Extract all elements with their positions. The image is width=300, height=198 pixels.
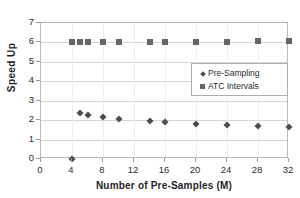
data-point bbox=[69, 39, 75, 45]
chart-legend: Pre-Sampling ATC Intervals bbox=[191, 63, 288, 96]
diamond-marker-icon bbox=[197, 72, 208, 76]
x-tick-mark bbox=[226, 158, 227, 162]
data-point bbox=[68, 155, 75, 162]
y-tick-mark bbox=[36, 119, 40, 120]
y-tick-label: 5 bbox=[14, 56, 34, 65]
y-tick-mark bbox=[36, 139, 40, 140]
y-tick-mark bbox=[36, 100, 40, 101]
x-tick-label: 32 bbox=[276, 165, 300, 174]
x-tick-mark bbox=[164, 158, 165, 162]
x-tick-label: 4 bbox=[59, 165, 83, 174]
data-point bbox=[161, 119, 168, 126]
y-tick-label: 2 bbox=[14, 114, 34, 123]
data-point bbox=[76, 110, 83, 117]
data-point bbox=[77, 39, 83, 45]
data-point bbox=[254, 123, 261, 130]
legend-item-atc-intervals: ATC Intervals bbox=[197, 80, 287, 93]
data-point bbox=[85, 39, 91, 45]
y-axis-title: Speed Up bbox=[6, 33, 17, 103]
data-point bbox=[84, 111, 91, 118]
y-tick-mark bbox=[36, 80, 40, 81]
x-tick-mark bbox=[288, 158, 289, 162]
data-point bbox=[224, 39, 230, 45]
x-tick-label: 24 bbox=[214, 165, 238, 174]
data-point bbox=[192, 121, 199, 128]
y-tick-mark bbox=[36, 22, 40, 23]
x-tick-mark bbox=[71, 158, 72, 162]
speed-up-scatter-chart: 01234567 048121620242832 Speed Up Number… bbox=[0, 0, 300, 198]
data-point bbox=[193, 39, 199, 45]
legend-label-atc-intervals: ATC Intervals bbox=[208, 82, 259, 91]
y-tick-label: 6 bbox=[14, 36, 34, 45]
y-tick-label: 1 bbox=[14, 134, 34, 143]
y-tick-mark bbox=[36, 41, 40, 42]
x-tick-mark bbox=[195, 158, 196, 162]
data-point bbox=[255, 38, 261, 44]
x-tick-mark bbox=[257, 158, 258, 162]
gridline bbox=[41, 140, 287, 141]
x-tick-label: 20 bbox=[183, 165, 207, 174]
x-tick-label: 12 bbox=[121, 165, 145, 174]
x-tick-label: 16 bbox=[152, 165, 176, 174]
y-tick-label: 7 bbox=[14, 17, 34, 26]
y-tick-mark bbox=[36, 61, 40, 62]
data-point bbox=[223, 121, 230, 128]
y-tick-label: 3 bbox=[14, 95, 34, 104]
gridline bbox=[41, 101, 287, 102]
square-marker-icon bbox=[197, 84, 208, 89]
y-tick-label: 4 bbox=[14, 75, 34, 84]
data-point bbox=[147, 39, 153, 45]
legend-label-pre-sampling: Pre-Sampling bbox=[208, 69, 260, 78]
data-point bbox=[146, 117, 153, 124]
data-point bbox=[286, 38, 292, 44]
y-tick-label: 0 bbox=[14, 153, 34, 162]
data-point bbox=[116, 39, 122, 45]
data-point bbox=[99, 113, 106, 120]
data-point bbox=[285, 123, 292, 130]
x-tick-mark bbox=[102, 158, 103, 162]
data-point bbox=[162, 39, 168, 45]
legend-item-pre-sampling: Pre-Sampling bbox=[197, 67, 287, 80]
x-tick-mark bbox=[40, 158, 41, 162]
x-axis-title: Number of Pre-Samples (M) bbox=[40, 180, 288, 191]
x-tick-label: 0 bbox=[28, 165, 52, 174]
x-tick-label: 8 bbox=[90, 165, 114, 174]
gridline bbox=[134, 23, 135, 157]
x-tick-label: 28 bbox=[245, 165, 269, 174]
x-tick-mark bbox=[133, 158, 134, 162]
data-point bbox=[100, 39, 106, 45]
